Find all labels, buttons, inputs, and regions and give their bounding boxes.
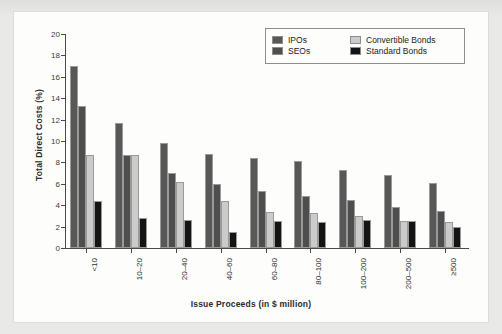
x-tick-label: ≥500 [449, 258, 458, 276]
y-tick [61, 227, 66, 228]
bar-standard-bonds [94, 201, 102, 248]
bar-convertible-bonds [445, 222, 453, 248]
bar-standard-bonds [408, 221, 416, 248]
x-tick [86, 248, 87, 253]
legend-swatch-icon [350, 47, 361, 55]
y-tick [61, 34, 66, 35]
y-tick [61, 120, 66, 121]
x-tick-label: 100–200 [359, 258, 368, 289]
bar-ipos [339, 170, 347, 248]
y-tick-label: 6 [56, 179, 60, 188]
bar-standard-bonds [184, 220, 192, 248]
bar-seos [392, 207, 400, 248]
bar-seos [437, 211, 445, 248]
y-tick [61, 55, 66, 56]
bar-standard-bonds [453, 227, 461, 248]
y-tick-label: 14 [51, 94, 60, 103]
bar-convertible-bonds [131, 155, 139, 248]
y-tick [61, 162, 66, 163]
y-tick-label: 8 [56, 158, 60, 167]
x-tick-label: 60–80 [270, 258, 279, 280]
bar-ipos [294, 161, 302, 248]
bar-convertible-bonds [310, 213, 318, 248]
legend-row: SEOs Standard Bonds [272, 46, 458, 56]
legend-label: SEOs [288, 46, 310, 56]
x-axis-title: Issue Proceeds (in $ million) [14, 299, 488, 309]
y-axis-title: Total Direct Costs (%) [34, 55, 44, 215]
y-tick-label: 16 [51, 72, 60, 81]
bar-seos [168, 173, 176, 248]
y-tick-label: 10 [51, 137, 60, 146]
legend-swatch-icon [272, 36, 283, 44]
x-tick-label: 200–500 [404, 258, 413, 289]
x-axis-line [65, 248, 469, 249]
legend-label: Standard Bonds [366, 46, 427, 56]
y-tick-label: 12 [51, 115, 60, 124]
x-tick [310, 248, 311, 253]
bar-ipos [160, 143, 168, 248]
chart-legend: IPOs Convertible Bonds SEOs Standard Bon… [265, 28, 465, 64]
x-tick-label: 20–40 [180, 258, 189, 280]
legend-item-convertible-bonds: Convertible Bonds [350, 35, 435, 45]
legend-row: IPOs Convertible Bonds [272, 35, 458, 45]
bar-standard-bonds [318, 222, 326, 248]
x-tick-label: 80–100 [314, 258, 323, 285]
bar-ipos [384, 175, 392, 248]
y-tick-label: 0 [56, 244, 60, 253]
legend-label: IPOs [288, 35, 307, 45]
y-tick [61, 248, 66, 249]
bar-seos [258, 191, 266, 248]
legend-item-seos: SEOs [272, 46, 350, 56]
y-tick-label: 4 [56, 201, 60, 210]
x-tick [445, 248, 446, 253]
y-tick-label: 18 [51, 51, 60, 60]
grouped-bar-chart: Total Direct Costs (%) Issue Proceeds (i… [14, 12, 488, 322]
bar-convertible-bonds [86, 155, 94, 248]
x-tick [221, 248, 222, 253]
x-tick [400, 248, 401, 253]
y-tick [61, 184, 66, 185]
bar-seos [213, 184, 221, 248]
legend-swatch-icon [272, 47, 283, 55]
bar-standard-bonds [139, 218, 147, 248]
bar-convertible-bonds [221, 201, 229, 248]
bar-seos [302, 196, 310, 248]
y-tick [61, 141, 66, 142]
bar-ipos [429, 183, 437, 248]
bar-ipos [115, 123, 123, 248]
bar-standard-bonds [229, 232, 237, 248]
legend-item-standard-bonds: Standard Bonds [350, 46, 427, 56]
x-tick [176, 248, 177, 253]
bar-standard-bonds [274, 221, 282, 248]
x-tick-label: 10–20 [135, 258, 144, 280]
bar-convertible-bonds [176, 182, 184, 248]
legend-swatch-icon [350, 36, 361, 44]
bar-ipos [205, 154, 213, 248]
bar-standard-bonds [363, 220, 371, 248]
y-tick [61, 98, 66, 99]
bar-seos [123, 155, 131, 248]
bar-convertible-bonds [400, 221, 408, 248]
x-tick [355, 248, 356, 253]
y-tick-label: 20 [51, 30, 60, 39]
x-tick-label: <10 [90, 258, 99, 272]
y-tick-label: 2 [56, 222, 60, 231]
y-tick [61, 205, 66, 206]
bar-ipos [250, 158, 258, 248]
plot-area: 02468101214161820 <1010–2020–4040–6060–8… [66, 34, 469, 248]
x-tick [266, 248, 267, 253]
legend-item-ipos: IPOs [272, 35, 350, 45]
y-tick [61, 77, 66, 78]
bar-convertible-bonds [266, 212, 274, 248]
bar-seos [347, 200, 355, 248]
x-tick-label: 40–60 [225, 258, 234, 280]
bar-convertible-bonds [355, 216, 363, 248]
bar-seos [78, 106, 86, 248]
figure-card: Total Direct Costs (%) Issue Proceeds (i… [14, 12, 488, 322]
scanned-page: Total Direct Costs (%) Issue Proceeds (i… [0, 0, 502, 334]
x-tick [131, 248, 132, 253]
bar-ipos [70, 66, 78, 248]
legend-label: Convertible Bonds [366, 35, 435, 45]
